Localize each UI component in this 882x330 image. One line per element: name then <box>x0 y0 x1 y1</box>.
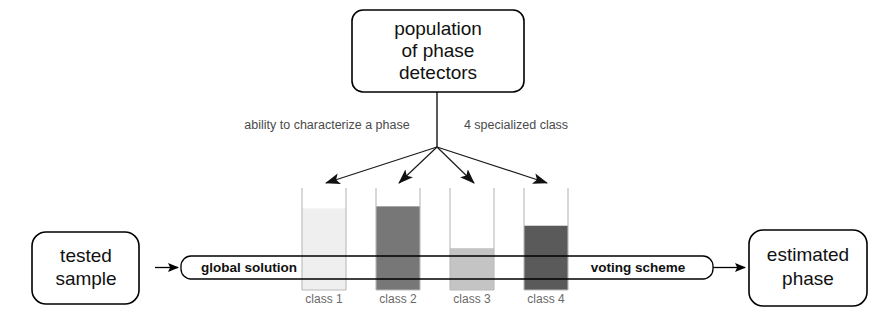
estimated-phase-line-2: phase <box>782 268 834 289</box>
fan-arrow-class-2 <box>399 147 437 183</box>
tested-sample-line-1: tested <box>60 245 112 266</box>
beaker-fill-class-3 <box>450 248 494 290</box>
tested-sample-line-2: sample <box>55 268 116 289</box>
class-label-2: class 2 <box>379 292 417 306</box>
beaker-fill-class-1 <box>302 208 346 290</box>
beaker-class-3[interactable] <box>450 188 494 290</box>
annotation-right: 4 specialized class <box>464 118 568 132</box>
beaker-class-1[interactable] <box>302 188 346 290</box>
population-line-3: detectors <box>399 62 477 83</box>
estimated-phase-line-1: estimated <box>767 244 849 265</box>
fan-arrow-class-4 <box>437 147 547 183</box>
beaker-class-2[interactable] <box>376 188 420 290</box>
beaker-fill-class-2 <box>376 206 420 290</box>
fan-arrow-class-1 <box>326 147 437 183</box>
population-line-2: of phase <box>402 40 475 61</box>
beaker-fill-class-4 <box>524 226 568 290</box>
class-label-1: class 1 <box>305 292 343 306</box>
bar-label-voting-scheme: voting scheme <box>591 260 686 275</box>
class-label-3: class 3 <box>453 292 491 306</box>
beaker-group <box>302 188 568 290</box>
class-label-4: class 4 <box>527 292 565 306</box>
fan-arrows <box>326 147 547 183</box>
diagram-canvas: population of phase detectors tested sam… <box>0 0 882 330</box>
fan-arrow-class-3 <box>437 147 474 183</box>
bar-label-global-solution: global solution <box>201 260 297 275</box>
flow-diagram: population of phase detectors tested sam… <box>0 0 882 330</box>
beaker-class-4[interactable] <box>524 188 568 290</box>
annotation-left: ability to characterize a phase <box>244 118 409 132</box>
population-line-1: population <box>394 18 482 39</box>
